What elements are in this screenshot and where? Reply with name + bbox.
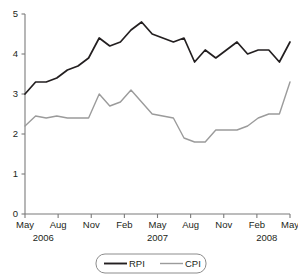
x-tick-label: May [281, 219, 298, 230]
y-tick-label: 2 [13, 128, 18, 139]
y-tick-label: 5 [13, 8, 18, 19]
y-axis: 012345 [13, 8, 25, 219]
x-tick-label: Feb [116, 219, 132, 230]
chart-legend: RPICPI [96, 254, 206, 273]
line-chart: 012345 MayAugNovFebMayAugNovFebMay200620… [0, 0, 298, 277]
series-layer [25, 22, 290, 142]
x-year-label: 2008 [256, 232, 277, 243]
x-year-label: 2007 [147, 232, 168, 243]
x-tick-label: Aug [182, 219, 199, 230]
x-tick-label: Nov [215, 219, 232, 230]
chart-canvas: 012345 MayAugNovFebMayAugNovFebMay200620… [0, 0, 298, 277]
y-tick-label: 0 [13, 208, 18, 219]
x-tick-label: May [149, 219, 167, 230]
legend-label-cpi: CPI [185, 258, 201, 269]
y-tick-label: 1 [13, 168, 18, 179]
x-tick-label: Aug [50, 219, 67, 230]
y-tick-label: 3 [13, 88, 18, 99]
series-line-rpi [25, 22, 290, 94]
x-tick-label: Nov [83, 219, 100, 230]
y-tick-label: 4 [13, 48, 18, 59]
series-line-cpi [25, 82, 290, 142]
x-year-label: 2006 [33, 232, 54, 243]
x-axis: MayAugNovFebMayAugNovFebMay200620072008 [16, 214, 298, 243]
x-tick-label: May [16, 219, 34, 230]
legend-label-rpi: RPI [129, 258, 145, 269]
x-tick-label: Feb [249, 219, 265, 230]
